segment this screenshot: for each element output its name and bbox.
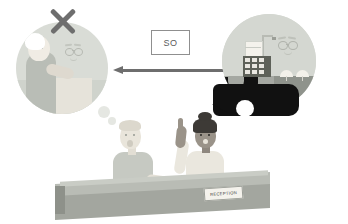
glasses-bridge-icon (286, 44, 289, 45)
thought-dot-small (108, 117, 116, 125)
receptionist-face-sketch (64, 42, 84, 62)
glasses-bridge-icon (72, 50, 75, 51)
flag-icon (272, 37, 276, 40)
brow-left-icon (65, 44, 72, 46)
illustration-canvas: SO (0, 0, 348, 224)
brow-right-icon (288, 36, 296, 39)
receptionist-mouth-icon (203, 139, 208, 144)
thought-dot-medium (98, 106, 110, 118)
mouth-icon (70, 57, 77, 61)
reception-sign-text: RECEPTION (210, 190, 237, 197)
so-label-text: SO (163, 38, 177, 48)
glasses-right-icon (288, 41, 298, 50)
building-upper-line (245, 47, 261, 48)
speech-bubble-tail (212, 104, 228, 113)
so-label-box: SO (151, 30, 190, 55)
brow-left-icon (278, 36, 286, 39)
leftward-arrow-icon (113, 66, 226, 75)
building-base (243, 56, 271, 77)
reception-desk-side (55, 186, 65, 214)
brow-right-icon (74, 44, 81, 46)
speech-bubble-notch (236, 100, 254, 117)
eye-right-icon (208, 134, 210, 136)
eye-left-icon (125, 134, 127, 136)
receptionist-hair-bun (198, 112, 212, 121)
elderly-guest-hair (25, 33, 45, 50)
building-upper (245, 41, 263, 57)
elderly-guest-body (26, 52, 56, 114)
hotel-building (243, 41, 271, 77)
eye-left-icon (200, 134, 202, 136)
reception-sign: RECEPTION (204, 186, 244, 202)
glasses-right-icon (74, 48, 83, 56)
eye-right-icon (133, 134, 135, 136)
arrow-shaft (122, 69, 226, 72)
guest-face-sketch (277, 36, 299, 56)
pointing-finger-icon (178, 118, 183, 130)
mouth-icon (284, 51, 292, 55)
guest-hair (119, 120, 141, 131)
glasses-left-icon (278, 41, 288, 50)
guest-mouth-icon (127, 140, 133, 147)
x-mark-icon (48, 6, 78, 36)
